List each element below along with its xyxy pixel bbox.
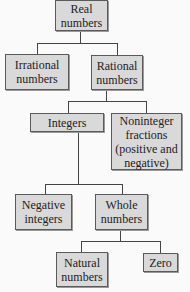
- node-negative-integers: Negative integers: [15, 194, 72, 230]
- node-whole-numbers: Whole numbers: [95, 194, 148, 230]
- connector-rational-branch: [68, 101, 147, 102]
- connector-to-natural: [81, 241, 82, 252]
- connector-to-irrational: [37, 43, 38, 54]
- node-zero: Zero: [143, 253, 178, 272]
- connector-to-whole: [122, 184, 123, 194]
- node-natural-numbers: Natural numbers: [56, 252, 108, 287]
- connector-integers-branch: [45, 184, 123, 185]
- node-irrational-numbers: Irrational numbers: [5, 54, 69, 90]
- connector-integers-down: [78, 132, 79, 184]
- connector-to-noninteger: [146, 101, 147, 113]
- connector-to-zero: [160, 241, 161, 253]
- node-rational-numbers: Rational numbers: [91, 55, 143, 90]
- connector-to-integers: [68, 101, 69, 113]
- node-real-numbers: Real numbers: [55, 0, 108, 31]
- connector-real-branch: [37, 43, 118, 44]
- node-integers: Integers: [30, 113, 104, 132]
- node-noninteger-fractions: Noninteger fractions (positive and negat…: [111, 113, 182, 170]
- connector-real-down: [80, 31, 81, 43]
- connector-whole-down: [120, 230, 121, 241]
- connector-rational-down: [106, 90, 107, 101]
- connector-whole-branch: [81, 241, 161, 242]
- connector-to-negative: [45, 184, 46, 194]
- connector-to-rational: [117, 43, 118, 55]
